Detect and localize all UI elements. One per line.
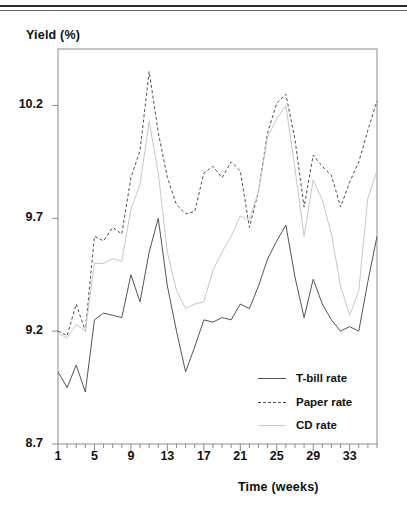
x-tick-label-13: 13: [155, 449, 179, 463]
series-line-t-bill-rate: [58, 218, 377, 392]
x-tick-label-9: 9: [119, 449, 143, 463]
y-tick-label-9.7: 9.7: [3, 210, 43, 224]
y-tick-label-10.2: 10.2: [3, 97, 43, 111]
x-tick-label-1: 1: [46, 449, 70, 463]
x-tick-label-29: 29: [301, 449, 325, 463]
plot-frame: [58, 49, 377, 444]
x-tick-label-21: 21: [228, 449, 252, 463]
x-tick-label-17: 17: [192, 449, 216, 463]
y-tick-label-9.2: 9.2: [3, 323, 43, 337]
legend-swatch-t-bill-rate: [258, 378, 286, 379]
series-line-paper-rate: [58, 72, 377, 336]
chart-plot-area: [0, 0, 407, 513]
legend-label-cd-rate: CD rate: [296, 419, 337, 431]
legend-label-paper-rate: Paper rate: [296, 396, 352, 408]
legend-swatch-cd-rate: [258, 425, 286, 426]
legend-swatch-paper-rate: [258, 402, 286, 403]
x-tick-label-25: 25: [265, 449, 289, 463]
line-chart: [0, 0, 407, 513]
x-tick-label-33: 33: [338, 449, 362, 463]
y-tick-label-8.7: 8.7: [3, 436, 43, 450]
series-line-cd-rate: [58, 105, 377, 337]
legend-label-t-bill-rate: T-bill rate: [296, 372, 347, 384]
x-tick-label-5: 5: [82, 449, 106, 463]
